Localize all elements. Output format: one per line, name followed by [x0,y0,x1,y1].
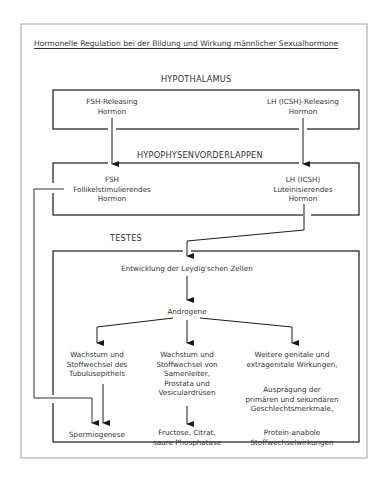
column-weitere-wirkungen: Weitere genitale und extragenitale Wirku… [237,350,347,369]
column-tubulus: Wachstum und Stoffwechsel des Tubulusepi… [57,350,137,379]
hypophyse-label: HYPOPHYSENVORDERLAPPEN [137,150,263,160]
geschlechtsmerkmale: Ausprägung der primären und sekundären G… [237,385,347,414]
lh-hormone: LH (ICSH) Luteinisierendes Hormon [260,175,346,204]
testes-label: TESTES [110,233,142,243]
leydig-cells: Entwicklung der Leydig'schen Zellen [107,264,267,274]
fructose-citrat: Fructose, Citrat, saure Phosphatase [142,428,232,447]
fsh-hormone: FSH Follikelstimulierendes Hormon [62,175,162,204]
hypothalamus-label: HYPOTHALAMUS [161,74,231,84]
androgene: Androgene [157,307,217,317]
protein-anabole: Protein-anabole Stoffwechselwirkungen [237,428,347,447]
lh-releasing-hormone: LH (ICSH)-Releasing Hormon [255,97,351,116]
diagram-title: Hormonelle Regulation bei der Bildung un… [34,39,338,48]
spermiogenese: Spermiogenese [57,430,137,440]
fsh-releasing-hormone: FSH-Releasing Hormon [74,97,150,116]
column-samenleiter: Wachstum und Stoffwechsel von Samenleite… [147,350,227,398]
